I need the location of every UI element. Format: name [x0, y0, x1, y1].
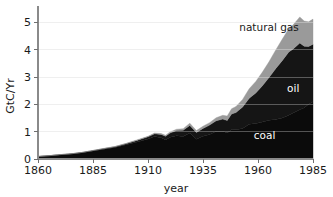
series-label-coal: coal	[254, 129, 276, 141]
x-tick-label: 1885	[79, 164, 107, 177]
x-tick-label: 1985	[299, 164, 327, 177]
y-axis-title: GtC/Yr	[4, 78, 17, 114]
series-label-oil: oil	[287, 82, 299, 94]
y-tick-label: 5	[24, 16, 31, 29]
x-tick-label: 1860	[24, 164, 52, 177]
y-tick-label: 4	[24, 44, 31, 57]
y-tick-label: 2	[24, 98, 31, 111]
y-axis-ticks: 012345	[24, 16, 38, 166]
x-axis-ticks: 186018851910193519601985	[24, 159, 327, 177]
y-tick-label: 3	[24, 71, 31, 84]
stacked-area-chart: 012345 186018851910193519601985 natural …	[0, 0, 333, 197]
x-axis-title: year	[164, 182, 189, 195]
chart-canvas: 012345 186018851910193519601985 natural …	[0, 0, 333, 197]
x-tick-label: 1960	[244, 164, 272, 177]
x-tick-label: 1935	[189, 164, 217, 177]
y-tick-label: 1	[24, 126, 31, 139]
series-label-natural-gas: natural gas	[239, 21, 298, 33]
x-tick-label: 1910	[134, 164, 162, 177]
